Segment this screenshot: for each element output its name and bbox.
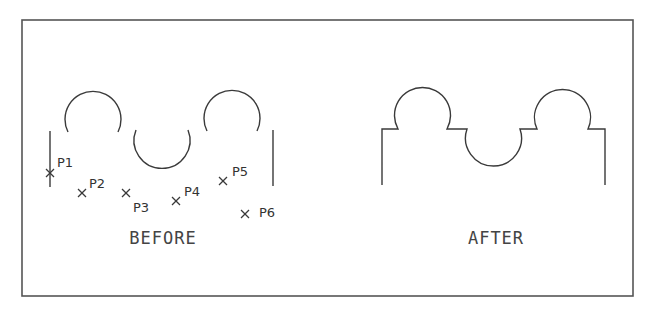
point-label-p3: P3 [133, 200, 149, 215]
before-arc-middle [134, 130, 190, 168]
after-joined-profile [382, 87, 605, 185]
point-marker-p6 [241, 210, 249, 218]
diagram-canvas: P1 P2 P3 P4 P5 P6 BEFORE AFTER [0, 0, 649, 310]
figure-frame [22, 20, 633, 296]
before-arc-right [204, 90, 260, 131]
point-marker-p2 [78, 189, 86, 197]
point-label-p6: P6 [259, 205, 275, 220]
point-marker-p4 [172, 197, 180, 205]
point-label-p4: P4 [184, 184, 200, 199]
after-panel: AFTER [382, 87, 605, 248]
point-marker-p3 [122, 189, 130, 197]
before-panel: P1 P2 P3 P4 P5 P6 BEFORE [46, 90, 275, 248]
point-label-p2: P2 [89, 176, 105, 191]
point-label-p5: P5 [232, 164, 248, 179]
point-label-p1: P1 [57, 155, 73, 170]
after-caption: AFTER [468, 228, 524, 248]
point-marker-p5 [219, 177, 227, 185]
before-caption: BEFORE [129, 228, 196, 248]
before-arc-left [65, 91, 121, 132]
